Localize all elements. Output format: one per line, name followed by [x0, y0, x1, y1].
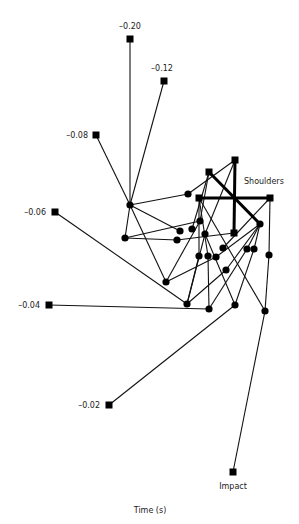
shoulder-marker [196, 195, 203, 202]
shoulder-marker [267, 195, 274, 202]
time-label-t006: –0.06 [24, 208, 46, 217]
joint-node [196, 217, 203, 224]
connector-line [96, 135, 130, 205]
connector-line [265, 255, 269, 311]
joint-node [261, 307, 268, 314]
time-label-t008: –0.08 [66, 131, 88, 140]
time-marker-t006 [52, 209, 59, 216]
time-marker-t020 [127, 36, 134, 43]
joint-node [256, 220, 263, 227]
shoulder-marker [232, 157, 239, 164]
axis-label: Time (s) [133, 506, 167, 515]
joint-node [219, 244, 226, 251]
joint-node [173, 236, 180, 243]
joint-node [265, 251, 272, 258]
joint-node [195, 252, 202, 259]
joint-node [231, 301, 238, 308]
time-label-t002: –0.02 [78, 401, 100, 410]
connector-line [187, 256, 199, 304]
joint-node [205, 305, 212, 312]
time-marker-t012 [161, 78, 168, 85]
joint-node [222, 266, 229, 273]
connector-line [130, 205, 166, 282]
connector-line [109, 305, 235, 405]
connector-line [235, 249, 254, 305]
connector-line [125, 205, 130, 238]
time-marker-t008 [93, 132, 100, 139]
connector-line [247, 224, 260, 249]
connector-line [130, 194, 188, 205]
shoulder-marker [206, 169, 213, 176]
joint-node [243, 245, 250, 252]
connector-line [205, 234, 235, 305]
shoulders-label: Shoulders [244, 177, 284, 186]
shoulder-marker [231, 230, 238, 237]
time-label-t012: –0.12 [151, 64, 173, 73]
joint-node [183, 300, 190, 307]
connector-line [269, 198, 270, 255]
connector-line [125, 238, 177, 240]
time-label-t020: –0.20 [119, 22, 141, 31]
joint-node [126, 201, 133, 208]
joint-node [201, 230, 208, 237]
joint-node [184, 190, 191, 197]
swing-timing-diagram: –0.20–0.12–0.08–0.06–0.04–0.02Impact Sho… [0, 0, 299, 524]
joint-node [250, 245, 257, 252]
connector-line [187, 270, 226, 304]
joint-node [204, 252, 211, 259]
joint-node [176, 227, 183, 234]
joint-node [188, 225, 195, 232]
connector-line [208, 256, 209, 309]
time-marker-impact [230, 469, 237, 476]
connector-line [233, 311, 265, 472]
connector-line [55, 212, 187, 304]
joint-node [212, 253, 219, 260]
time-label-impact: Impact [219, 482, 247, 491]
time-marker-t002 [106, 402, 113, 409]
time-label-t004: –0.04 [18, 301, 40, 310]
connector-line [130, 81, 164, 205]
joint-node [162, 278, 169, 285]
time-marker-t004 [46, 302, 53, 309]
joint-node [121, 234, 128, 241]
